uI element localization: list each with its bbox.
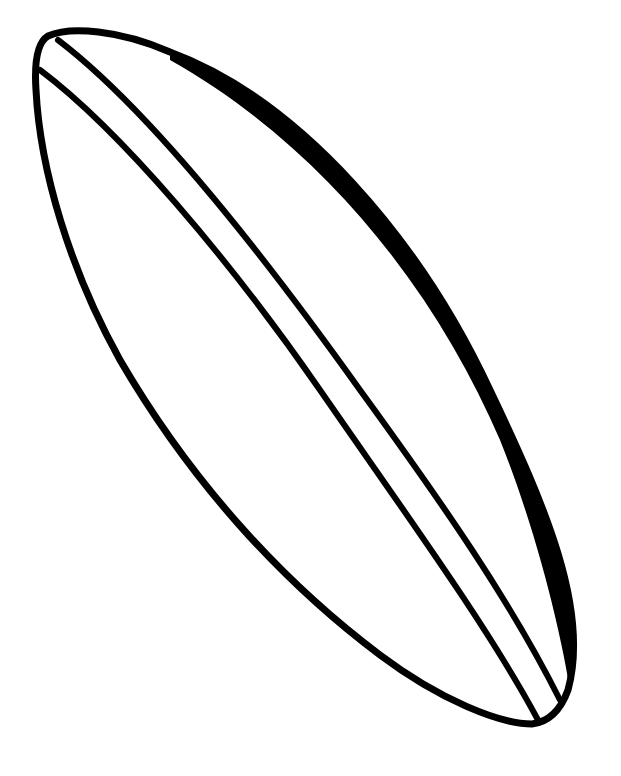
surfboard-illustration [0,0,621,776]
surfboard-stringer-lower [40,70,538,720]
surfboard-drawing: Surfboard line drawing [0,0,621,776]
surfboard-shaded-rail [170,52,573,690]
